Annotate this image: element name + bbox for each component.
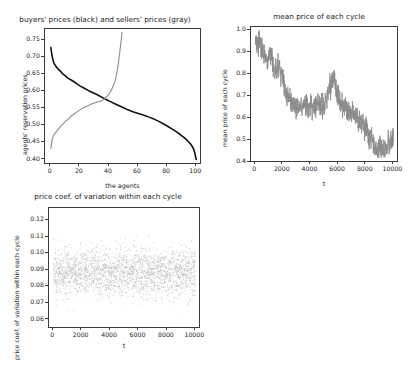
y-tickmark <box>247 117 249 118</box>
mean-price-series <box>251 27 399 163</box>
y-tickmark <box>45 252 47 253</box>
y-tick-label: 0.7 <box>215 92 246 98</box>
sellers-price-curve <box>51 32 122 148</box>
y-tick-label: 0.11 <box>13 233 44 239</box>
chart-title-supply-demand: buyers' prices (black) and sellers' pric… <box>0 16 210 23</box>
x-axis-label-mean-price: t <box>250 181 398 187</box>
supply-demand-curves <box>45 29 202 165</box>
y-tickmark <box>45 285 47 286</box>
y-tick-label: 0.12 <box>13 216 44 222</box>
y-tick-label: 0.4 <box>215 158 246 164</box>
y-tickmark <box>247 161 249 162</box>
plot-area-price-cv <box>48 207 200 328</box>
y-tickmark <box>41 56 43 57</box>
y-tick-label: 0.60 <box>9 87 40 93</box>
y-tickmark <box>41 158 43 159</box>
y-tick-label: 0.07 <box>13 299 44 305</box>
y-tick-label: 0.6 <box>215 114 246 120</box>
chart-title-price-cv: price coef. of variation within each cyc… <box>8 193 208 200</box>
y-tick-label: 0.8 <box>215 70 246 76</box>
y-tickmark <box>41 39 43 40</box>
x-tick-label: 10000 <box>370 166 413 172</box>
y-tick-label: 0.50 <box>9 121 40 127</box>
price-cv-scatter <box>49 208 201 329</box>
x-axis-label-price-cv: t <box>48 343 200 349</box>
y-tickmark <box>247 29 249 30</box>
y-tick-label: 0.5 <box>215 136 246 142</box>
y-tick-label: 0.06 <box>13 316 44 322</box>
y-tickmark <box>45 219 47 220</box>
price-cv-points <box>53 234 196 325</box>
y-tickmark <box>45 236 47 237</box>
y-tickmark <box>41 73 43 74</box>
y-tickmark <box>247 51 249 52</box>
y-tickmark <box>41 124 43 125</box>
y-tick-label: 0.40 <box>9 156 40 162</box>
y-tickmark <box>247 139 249 140</box>
y-tick-label: 0.09 <box>13 266 44 272</box>
y-tickmark <box>45 269 47 270</box>
y-tick-label: 0.70 <box>9 53 40 59</box>
matplotlib-figure: buyers' prices (black) and sellers' pric… <box>0 0 413 382</box>
y-tick-label: 1.0 <box>215 26 246 32</box>
y-tick-label: 0.9 <box>215 48 246 54</box>
y-tick-label: 0.10 <box>13 249 44 255</box>
panel-mean-price: mean price of each cycle mean price of e… <box>210 0 413 195</box>
y-tickmark <box>247 95 249 96</box>
y-tick-label: 0.55 <box>9 104 40 110</box>
plot-area-supply-demand <box>44 28 201 164</box>
y-tickmark <box>45 318 47 319</box>
y-tick-label: 0.75 <box>9 36 40 42</box>
y-tickmark <box>41 141 43 142</box>
y-tickmark <box>247 73 249 74</box>
buyers-price-curve <box>51 48 196 160</box>
plot-area-mean-price <box>250 26 398 162</box>
x-tick-label: 10000 <box>172 332 216 338</box>
y-tick-label: 0.65 <box>9 70 40 76</box>
y-tickmark <box>41 107 43 108</box>
y-tickmark <box>41 90 43 91</box>
y-tickmark <box>45 302 47 303</box>
panel-supply-demand: buyers' prices (black) and sellers' pric… <box>0 0 210 190</box>
mean-price-line <box>255 30 393 157</box>
chart-title-mean-price: mean price of each cycle <box>230 13 408 20</box>
y-tick-label: 0.45 <box>9 138 40 144</box>
y-tick-label: 0.08 <box>13 282 44 288</box>
panel-price-cv: price coef. of variation within each cyc… <box>0 185 215 382</box>
